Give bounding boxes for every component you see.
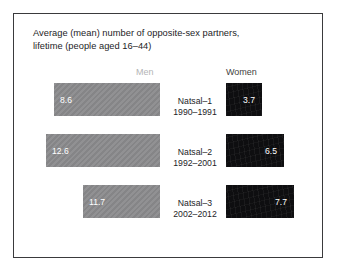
bar-women: 6.5 [226,134,284,167]
row-label: Natsal–2 1992–2001 [166,147,224,170]
chart-row: 12.6 Natsal–2 1992–2001 6.5 [14,133,322,184]
bar-value-men: 8.6 [60,95,72,105]
bar-value-women: 7.7 [275,197,287,207]
bar-value-women: 3.7 [243,95,255,105]
bar-men: 8.6 [54,83,160,116]
chart-title-line-1: Average (mean) number of opposite-sex pa… [33,27,285,40]
row-label-survey: Natsal–3 [166,198,224,210]
row-label-period: 1990–1991 [166,108,224,120]
bar-value-women: 6.5 [265,146,277,156]
bar-men: 12.6 [46,134,160,167]
row-label: Natsal–1 1990–1991 [166,96,224,119]
row-label-period: 1992–2001 [166,159,224,171]
chart-title-line-2: lifetime (people aged 16–44) [33,40,285,53]
chart-rows: 8.6 Natsal–1 1990–1991 3.7 12.6 Natsal–2… [14,82,322,235]
row-label-survey: Natsal–1 [166,96,224,108]
row-label-period: 2002–2012 [166,210,224,222]
row-label-survey: Natsal–2 [166,147,224,159]
chart-row: 8.6 Natsal–1 1990–1991 3.7 [14,82,322,133]
bar-men: 11.7 [83,185,160,218]
chart-row: 11.7 Natsal–3 2002–2012 7.7 [14,184,322,235]
chart-title: Average (mean) number of opposite-sex pa… [33,27,285,53]
bar-women: 3.7 [226,83,262,116]
bar-value-men: 12.6 [52,146,69,156]
column-header-women: Women [226,67,257,78]
chart-figure: Average (mean) number of opposite-sex pa… [13,13,323,258]
bar-value-men: 11.7 [89,197,105,207]
column-header-men: Men [136,67,154,78]
row-label: Natsal–3 2002–2012 [166,198,224,221]
bar-women: 7.7 [226,185,294,218]
